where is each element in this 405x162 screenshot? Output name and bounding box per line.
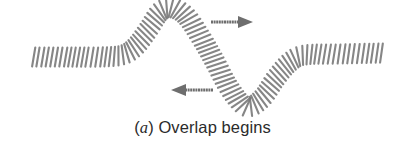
figure-caption: (a) Overlap begins	[0, 118, 405, 138]
caption-text: Overlap begins	[154, 118, 271, 136]
caption-label: a	[140, 118, 148, 137]
spring-coils	[32, 0, 383, 116]
left-moving-pulse-arrow	[171, 84, 213, 96]
right-moving-pulse-arrow	[211, 16, 253, 28]
